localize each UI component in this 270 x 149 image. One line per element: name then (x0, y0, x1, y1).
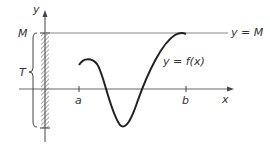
brace-T (29, 33, 37, 127)
x-axis-arrow-icon (227, 87, 234, 92)
function-label: y = f(x) (163, 56, 205, 67)
x-axis-label: x (222, 94, 229, 105)
label-M: M (18, 28, 28, 39)
upper-bound-label: y = M (231, 27, 263, 38)
label-T: T (19, 67, 26, 78)
tick-label-b: b (182, 95, 189, 106)
y-axis-arrow-icon (43, 10, 48, 17)
tick-label-a: a (75, 95, 82, 106)
function-curve (79, 33, 186, 126)
y-axis-label: y (33, 4, 40, 15)
diagram-canvas (0, 0, 270, 149)
